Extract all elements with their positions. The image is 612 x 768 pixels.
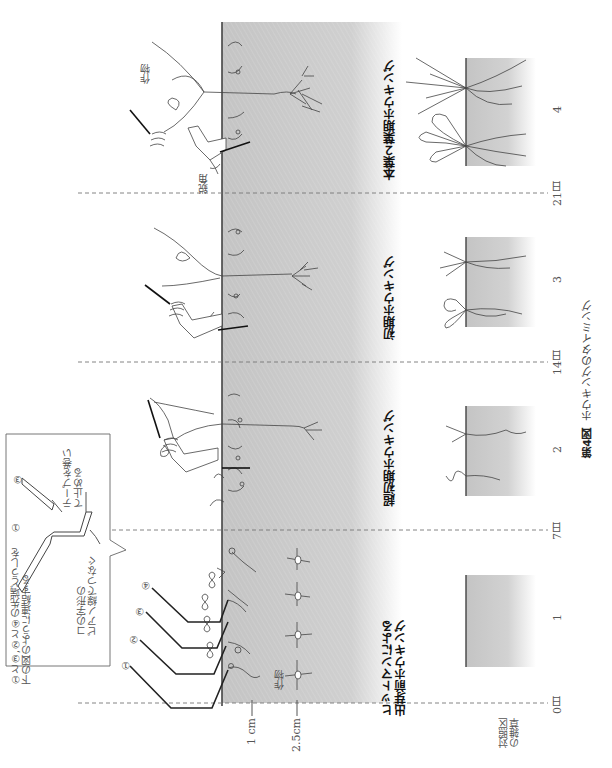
control-box-3 bbox=[466, 237, 536, 327]
tine-marker-3: ③ bbox=[134, 606, 146, 617]
figure-title: ホウキングのタイミング bbox=[581, 300, 594, 421]
tine-marker-4: ④ bbox=[140, 580, 152, 591]
depth-label-2-5cm: 2.5cm bbox=[291, 718, 304, 752]
day-label-7: 7日 bbox=[552, 522, 565, 540]
hoeing-timing-diagram bbox=[0, 0, 612, 768]
tine-4 bbox=[152, 588, 228, 622]
day-label-14: 14日 bbox=[552, 350, 565, 375]
stage3-number: 3 bbox=[552, 276, 565, 283]
stage3-title: 初期ホウキング bbox=[384, 256, 398, 340]
control-box-1 bbox=[466, 575, 536, 667]
control-weeds-label: 対照区の雑草 bbox=[498, 718, 521, 748]
day-label-0: 0日 bbox=[552, 696, 565, 714]
figure-caption: 第4図 ホウキングのタイミング bbox=[582, 300, 595, 458]
acute-angle-label: 鋭角 bbox=[198, 174, 210, 194]
stage4-number: 4 bbox=[552, 106, 565, 113]
stage4-title: 本葉２葉期ホウキング bbox=[384, 60, 398, 180]
tine-marker-2: ② bbox=[128, 634, 140, 645]
control-box-2 bbox=[466, 406, 536, 496]
control-box-4 bbox=[466, 58, 536, 166]
stage2-number: 2 bbox=[552, 446, 565, 453]
tine-3 bbox=[146, 612, 228, 648]
soil-profile bbox=[222, 22, 402, 706]
tine-marker-1: ① bbox=[120, 660, 132, 671]
callout-piano-wire-note: コの字形のピアノ線でつなぐ bbox=[76, 556, 99, 636]
stage1-number: 1 bbox=[552, 614, 565, 621]
crop-label-stage1: 作物 bbox=[274, 670, 286, 690]
crop-label-stage4: 作物 bbox=[140, 64, 152, 84]
figure-number: 第4図 bbox=[581, 428, 594, 458]
depth-label-1cm: 1 cm bbox=[246, 718, 259, 745]
day-label-21: 21日 bbox=[552, 181, 565, 206]
callout-tape-note: テープを巻いて止める bbox=[62, 448, 85, 508]
tine-1 bbox=[130, 666, 228, 708]
stage2-title: 超初期ホウキング bbox=[384, 410, 398, 506]
callout-marker-1: ① bbox=[10, 522, 22, 533]
stage1-title: ヒットマンによる出芽前ホウキング bbox=[382, 620, 410, 716]
callout-instruction: ①と③,②と④の先端どうしを下の図のように連結する bbox=[10, 548, 33, 685]
control-weed-boxes bbox=[466, 58, 536, 667]
callout-marker-3: ③ bbox=[12, 474, 24, 485]
